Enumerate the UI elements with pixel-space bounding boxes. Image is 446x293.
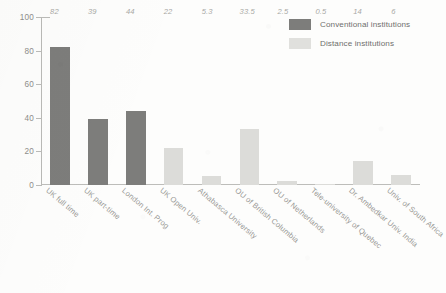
bar-column[interactable]: 14 (353, 17, 373, 185)
bar-column[interactable]: 6 (391, 17, 411, 185)
bar-6[interactable]: 2.5 (277, 181, 297, 185)
bar-column[interactable]: 44 (126, 17, 146, 185)
y-tick-label-60: 60 (24, 80, 34, 89)
bar-column[interactable]: 2.5 (277, 17, 297, 185)
bar-value-label: 33.5 (240, 7, 255, 16)
bar-column[interactable]: 22 (164, 17, 184, 185)
x-label-1: UK part-time (82, 186, 122, 221)
y-tick-label-40: 40 (24, 113, 34, 122)
bar-4[interactable]: 5.3 (202, 176, 222, 185)
y-tick-label-80: 80 (24, 46, 34, 55)
bar-value-label: 2.5 (277, 7, 288, 16)
bar-column[interactable]: 82 (50, 17, 70, 185)
x-label-5: OU of British Columbia (234, 186, 301, 245)
bar-9[interactable]: 6 (391, 175, 411, 185)
bar-0[interactable]: 82 (50, 47, 70, 185)
bar-column[interactable]: 39 (88, 17, 108, 185)
bar-value-label: 5.3 (202, 7, 213, 16)
bar-value-label: 82 (50, 7, 59, 16)
bar-value-label: 39 (88, 7, 97, 16)
bar-5[interactable]: 33.5 (240, 129, 260, 185)
bar-2[interactable]: 44 (126, 111, 146, 185)
bar-value-label: 6 (391, 7, 395, 16)
x-label-0: UK full time (44, 186, 81, 219)
bar-7[interactable]: 0.5 (315, 184, 335, 185)
bar-1[interactable]: 39 (88, 119, 108, 185)
y-tick-label-20: 20 (24, 147, 34, 156)
bar-value-label: 44 (126, 7, 135, 16)
bar-value-label: 22 (164, 7, 173, 16)
x-label-8: Dr. Ambedkar Univ. India (347, 186, 419, 249)
x-axis-labels: UK full timeUK part-timeLondon Int. Prog… (41, 186, 420, 291)
y-tick-label-100: 100 (20, 13, 34, 22)
bar-value-label: 14 (353, 7, 362, 16)
bar-column[interactable]: 33.5 (240, 17, 260, 185)
x-label-7: Tele-university of Quebec (309, 186, 383, 250)
bar-column[interactable]: 5.3 (202, 17, 222, 185)
bar-group: 823944225.333.52.50.5146 (41, 17, 420, 185)
y-tick-label-0: 0 (29, 181, 34, 190)
bar-column[interactable]: 0.5 (315, 17, 335, 185)
plot-area: 020406080100 823944225.333.52.50.5146 (41, 17, 420, 185)
bar-3[interactable]: 22 (164, 148, 184, 185)
bar-8[interactable]: 14 (353, 161, 373, 185)
bar-value-label: 0.5 (315, 7, 326, 16)
